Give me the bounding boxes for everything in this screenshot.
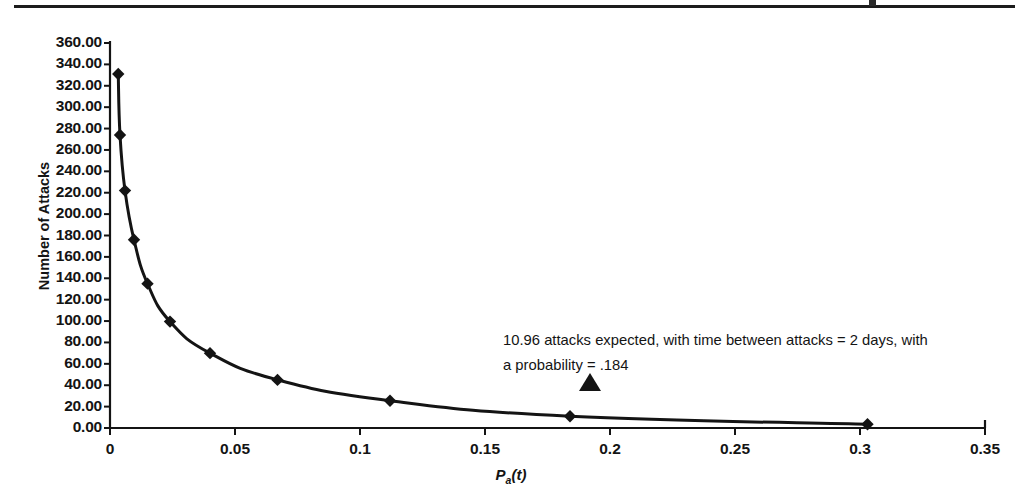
data-point-marker-7 bbox=[271, 374, 283, 386]
y-tick-label-2: 40.00 bbox=[14, 375, 102, 393]
data-point-marker-0 bbox=[112, 68, 124, 80]
y-tick-label-5: 100.00 bbox=[14, 311, 102, 329]
x-tick-label-7: 0.35 bbox=[945, 440, 1022, 458]
x-tick-label-5: 0.25 bbox=[695, 440, 775, 458]
y-tick-label-15: 300.00 bbox=[14, 97, 102, 115]
annotation-line-2: a probability = .184 bbox=[503, 353, 933, 378]
data-point-marker-1 bbox=[114, 129, 126, 141]
y-tick-label-0: 0.00 bbox=[14, 418, 102, 436]
y-tick-label-1: 20.00 bbox=[14, 397, 102, 415]
x-tick-label-2: 0.1 bbox=[320, 440, 400, 458]
y-tick-label-11: 220.00 bbox=[14, 183, 102, 201]
y-tick-label-12: 240.00 bbox=[14, 161, 102, 179]
x-tick-label-6: 0.3 bbox=[820, 440, 900, 458]
y-tick-label-3: 60.00 bbox=[14, 354, 102, 372]
y-tick-label-8: 160.00 bbox=[14, 247, 102, 265]
data-point-marker-2 bbox=[119, 184, 131, 196]
data-point-marker-3 bbox=[128, 234, 140, 246]
y-tick-label-10: 200.00 bbox=[14, 204, 102, 222]
x-tick-label-0: 0 bbox=[70, 440, 150, 458]
data-point-marker-6 bbox=[204, 347, 216, 359]
data-point-marker-9 bbox=[564, 410, 576, 422]
y-tick-label-13: 260.00 bbox=[14, 140, 102, 158]
data-point-marker-8 bbox=[384, 395, 396, 407]
y-tick-label-17: 340.00 bbox=[14, 54, 102, 72]
plot-canvas bbox=[0, 0, 1022, 503]
annotation-line-1: 10.96 attacks expected, with time betwee… bbox=[503, 328, 933, 353]
x-tick-label-4: 0.2 bbox=[570, 440, 650, 458]
x-axis-title-main: P bbox=[496, 466, 506, 483]
x-tick-label-3: 0.15 bbox=[445, 440, 525, 458]
y-axis-title: Number of Attacks bbox=[36, 126, 52, 326]
data-point-marker-4 bbox=[141, 277, 153, 289]
y-tick-label-6: 120.00 bbox=[14, 290, 102, 308]
x-tick-label-1: 0.05 bbox=[195, 440, 275, 458]
chart-annotation-text: 10.96 attacks expected, with time betwee… bbox=[503, 328, 933, 378]
y-tick-label-9: 180.00 bbox=[14, 226, 102, 244]
y-tick-label-4: 80.00 bbox=[14, 332, 102, 350]
y-tick-label-16: 320.00 bbox=[14, 76, 102, 94]
x-axis-title: Pa(t) bbox=[0, 466, 1022, 486]
x-axis-title-tail: (t) bbox=[511, 466, 526, 483]
y-tick-label-18: 360.00 bbox=[14, 33, 102, 51]
y-tick-label-14: 280.00 bbox=[14, 119, 102, 137]
chart-figure: 0.0020.0040.0060.0080.00100.00120.00140.… bbox=[0, 0, 1022, 503]
y-tick-label-7: 140.00 bbox=[14, 268, 102, 286]
